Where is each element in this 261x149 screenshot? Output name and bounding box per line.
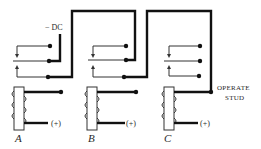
terminal-dot [198, 44, 202, 48]
relay-b-down-arrow-icon [91, 54, 95, 58]
relay-a-up-arrow-icon [15, 65, 19, 69]
coil-core [87, 87, 97, 130]
relay-a-contacts [13, 44, 52, 79]
relay-a-top-contact [17, 46, 50, 56]
relay-c-bottom-contact [169, 67, 199, 76]
operate-stud-label-line1: OPERATE [217, 84, 250, 92]
relay-b-up-arrow-icon [91, 65, 95, 69]
coil-core [14, 87, 24, 130]
relay-circuit-diagram: − DC (+) A [0, 0, 261, 149]
operate-stud-junction [209, 90, 213, 94]
relay-c-label: C [164, 132, 172, 144]
relay-c-up-arrow-icon [167, 65, 171, 69]
relay-a-label: A [14, 132, 22, 144]
dc-supply-label: − DC [45, 23, 63, 32]
relay-b-top-contact [93, 46, 126, 56]
relay-b-bottom-contact [93, 67, 124, 77]
wire-b-to-c [124, 11, 211, 92]
relay-b-contacts [88, 44, 128, 79]
operate-stud-label-line2: STUD [225, 94, 244, 102]
relay-c-supply-label: (+) [200, 119, 210, 128]
coil-core [164, 87, 174, 130]
relay-a-bottom-contact [17, 67, 48, 77]
terminal-dot [59, 90, 63, 94]
relay-b-supply-label: (+) [126, 119, 136, 128]
terminal-dot [124, 44, 128, 48]
terminal-dot [124, 58, 128, 62]
relay-a-down-arrow-icon [15, 54, 19, 58]
relay-a-supply-label: (+) [51, 119, 61, 128]
terminal-dot [134, 90, 138, 94]
terminal-dot [198, 59, 202, 63]
relay-c-down-arrow-icon [167, 54, 171, 58]
terminal-dot [48, 44, 52, 48]
relay-c-top-contact [169, 46, 200, 56]
relay-c-contacts [164, 44, 202, 78]
terminal-dot [197, 74, 201, 78]
relay-b-label: B [88, 132, 95, 144]
